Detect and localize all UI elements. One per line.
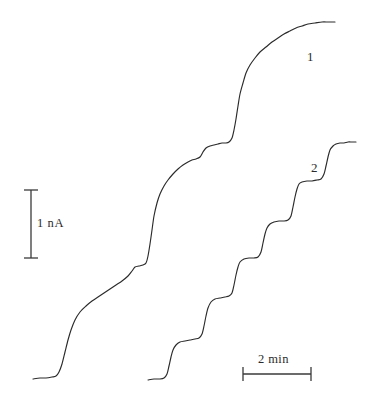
trace-1-path xyxy=(33,22,335,379)
trace-2-path xyxy=(148,142,356,380)
current-scale-bar-label: 1 nA xyxy=(37,217,64,230)
trace-2-label: 2 xyxy=(311,161,318,174)
trace-1-label: 1 xyxy=(307,50,314,63)
traces-group xyxy=(33,22,356,380)
time-scale-bar-label: 2 min xyxy=(258,353,289,366)
trace-canvas xyxy=(0,0,383,404)
electrophysiology-trace-figure: 1 2 1 nA 2 min xyxy=(0,0,383,404)
